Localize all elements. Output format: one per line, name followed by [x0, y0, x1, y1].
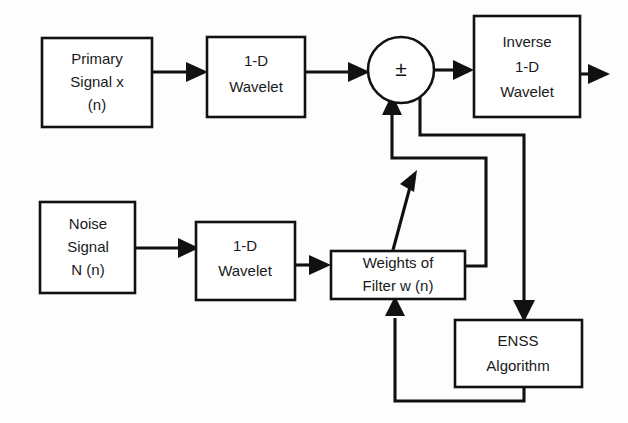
block-enss-algorithm[interactable]: ENSS Algorithm — [455, 320, 582, 387]
inverse-wavelet-line2: 1-D — [515, 58, 539, 75]
wire-inverse-wavelet-output — [580, 64, 610, 84]
block-inverse-wavelet[interactable]: Inverse 1-D Wavelet — [474, 16, 580, 117]
noise-signal-line3: N (n) — [71, 261, 104, 278]
block-primary-signal[interactable]: Primary Signal x (n) — [42, 38, 152, 127]
wire-sum-tap-to-weights — [382, 94, 486, 266]
noise-signal-line2: Signal — [67, 238, 109, 255]
primary-signal-line3: (n) — [88, 96, 106, 113]
weights-filter-line1: Weights of — [363, 254, 434, 271]
wavelet-bottom-line1: 1-D — [233, 237, 257, 254]
primary-signal-line1: Primary — [71, 50, 123, 67]
block-summing-node[interactable]: ± — [368, 37, 434, 103]
wire-wavelet-bottom-to-weights — [295, 255, 331, 275]
diagram-canvas: Primary Signal x (n) 1-D Wavelet ± Inver… — [0, 0, 628, 423]
block-diagram: Primary Signal x (n) 1-D Wavelet ± Inver… — [0, 0, 628, 423]
noise-signal-line1: Noise — [69, 215, 107, 232]
wire-weights-to-sum-diagonal — [393, 170, 417, 250]
enss-line1: ENSS — [498, 332, 539, 349]
wire-sum-to-inverse-wavelet — [434, 60, 474, 80]
block-noise-signal[interactable]: Noise Signal N (n) — [40, 202, 135, 293]
wire-wavelet-top-to-sum — [305, 62, 370, 82]
primary-signal-line2: Signal x — [70, 73, 124, 90]
wavelet-top-line1: 1-D — [244, 52, 268, 69]
wavelet-bottom-line2: Wavelet — [218, 262, 272, 279]
wavelet-top-line2: Wavelet — [229, 78, 283, 95]
block-wavelet-top[interactable]: 1-D Wavelet — [207, 37, 305, 117]
weights-filter-line2: Filter w (n) — [363, 277, 434, 294]
inverse-wavelet-line1: Inverse — [502, 33, 551, 50]
block-weights-filter[interactable]: Weights of Filter w (n) — [331, 251, 465, 299]
inverse-wavelet-line3: Wavelet — [500, 83, 554, 100]
summing-node-symbol: ± — [395, 57, 407, 80]
wire-noise-to-wavelet-bottom — [135, 238, 199, 258]
wire-primary-to-wavelet-top — [152, 62, 208, 82]
enss-line2: Algorithm — [486, 357, 549, 374]
block-wavelet-bottom[interactable]: 1-D Wavelet — [196, 222, 295, 300]
